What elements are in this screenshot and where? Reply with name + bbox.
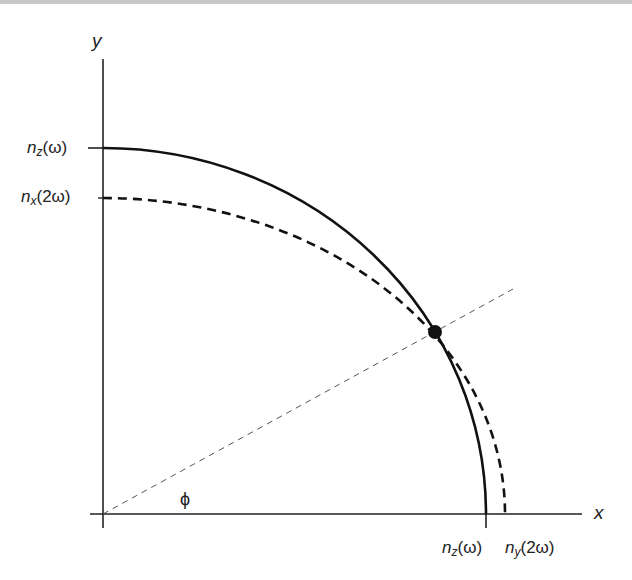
- phase-matching-point: [428, 325, 442, 339]
- dashed-index-curve: [103, 198, 505, 514]
- y-axis-label: y: [92, 31, 102, 50]
- propagation-direction-line: [103, 289, 513, 514]
- x-axis-label: x: [594, 503, 604, 522]
- index-ellipse-diagram: [0, 0, 632, 580]
- x-tick-label-ny: ny(2ω): [505, 539, 555, 558]
- angle-phi-label: ϕ: [180, 490, 190, 508]
- x-tick-label-nz: nz(ω): [442, 539, 482, 558]
- y-tick-label-nz: nz(ω): [27, 139, 67, 158]
- y-tick-label-nx: nx(2ω): [21, 188, 71, 207]
